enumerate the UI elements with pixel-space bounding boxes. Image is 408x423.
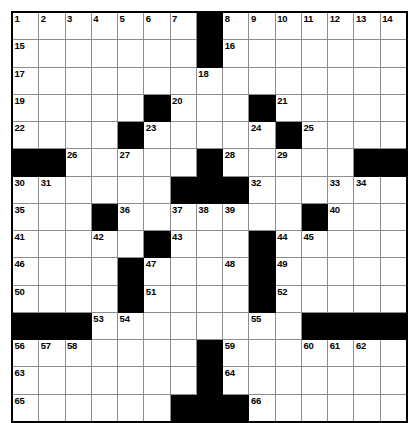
open-square[interactable] <box>380 285 407 312</box>
open-square[interactable] <box>301 149 327 176</box>
open-square[interactable] <box>65 122 91 149</box>
open-square[interactable]: 10 <box>275 12 301 40</box>
open-square[interactable] <box>65 40 91 67</box>
open-square[interactable] <box>65 176 91 203</box>
open-square[interactable]: 45 <box>301 231 327 258</box>
open-square[interactable]: 47 <box>144 258 170 285</box>
open-square[interactable] <box>144 394 170 422</box>
open-square[interactable]: 50 <box>12 285 39 312</box>
open-square[interactable] <box>328 367 354 394</box>
open-square[interactable] <box>118 40 144 67</box>
open-square[interactable] <box>91 176 117 203</box>
open-square[interactable] <box>328 231 354 258</box>
open-square[interactable] <box>39 285 65 312</box>
open-square[interactable] <box>65 394 91 422</box>
open-square[interactable] <box>328 67 354 94</box>
open-square[interactable]: 46 <box>12 258 39 285</box>
open-square[interactable] <box>118 94 144 121</box>
open-square[interactable] <box>91 149 117 176</box>
open-square[interactable]: 64 <box>223 367 249 394</box>
open-square[interactable] <box>170 40 196 67</box>
open-square[interactable] <box>118 394 144 422</box>
open-square[interactable] <box>275 340 301 367</box>
open-square[interactable] <box>275 312 301 339</box>
open-square[interactable] <box>39 231 65 258</box>
open-square[interactable] <box>170 122 196 149</box>
open-square[interactable]: 20 <box>170 94 196 121</box>
open-square[interactable]: 57 <box>39 340 65 367</box>
open-square[interactable]: 32 <box>249 176 275 203</box>
open-square[interactable] <box>118 176 144 203</box>
open-square[interactable]: 63 <box>12 367 39 394</box>
open-square[interactable] <box>196 312 222 339</box>
open-square[interactable] <box>223 94 249 121</box>
open-square[interactable] <box>354 231 380 258</box>
open-square[interactable] <box>39 40 65 67</box>
open-square[interactable]: 2 <box>39 12 65 40</box>
open-square[interactable] <box>39 122 65 149</box>
open-square[interactable] <box>65 258 91 285</box>
open-square[interactable] <box>39 94 65 121</box>
open-square[interactable] <box>380 340 407 367</box>
open-square[interactable] <box>328 258 354 285</box>
open-square[interactable] <box>91 340 117 367</box>
open-square[interactable] <box>196 258 222 285</box>
open-square[interactable] <box>380 176 407 203</box>
open-square[interactable] <box>65 94 91 121</box>
open-square[interactable] <box>223 67 249 94</box>
open-square[interactable] <box>249 40 275 67</box>
open-square[interactable] <box>196 94 222 121</box>
open-square[interactable]: 58 <box>65 340 91 367</box>
open-square[interactable]: 48 <box>223 258 249 285</box>
open-square[interactable]: 12 <box>328 12 354 40</box>
open-square[interactable] <box>196 231 222 258</box>
open-square[interactable]: 30 <box>12 176 39 203</box>
open-square[interactable] <box>380 394 407 422</box>
open-square[interactable] <box>380 94 407 121</box>
open-square[interactable] <box>170 258 196 285</box>
open-square[interactable] <box>380 67 407 94</box>
open-square[interactable] <box>301 67 327 94</box>
open-square[interactable] <box>354 285 380 312</box>
open-square[interactable] <box>328 285 354 312</box>
open-square[interactable]: 29 <box>275 149 301 176</box>
open-square[interactable] <box>249 149 275 176</box>
open-square[interactable] <box>275 40 301 67</box>
open-square[interactable]: 41 <box>12 231 39 258</box>
open-square[interactable] <box>65 203 91 230</box>
open-square[interactable] <box>170 367 196 394</box>
open-square[interactable] <box>91 258 117 285</box>
open-square[interactable] <box>249 340 275 367</box>
open-square[interactable]: 36 <box>118 203 144 230</box>
open-square[interactable]: 16 <box>223 40 249 67</box>
open-square[interactable]: 54 <box>118 312 144 339</box>
open-square[interactable]: 13 <box>354 12 380 40</box>
open-square[interactable]: 65 <box>12 394 39 422</box>
open-square[interactable] <box>144 203 170 230</box>
open-square[interactable]: 60 <box>301 340 327 367</box>
open-square[interactable] <box>275 176 301 203</box>
open-square[interactable] <box>380 40 407 67</box>
open-square[interactable]: 31 <box>39 176 65 203</box>
open-square[interactable] <box>39 203 65 230</box>
open-square[interactable] <box>249 203 275 230</box>
open-square[interactable] <box>65 285 91 312</box>
open-square[interactable]: 37 <box>170 203 196 230</box>
open-square[interactable]: 22 <box>12 122 39 149</box>
open-square[interactable] <box>65 367 91 394</box>
open-square[interactable]: 49 <box>275 258 301 285</box>
open-square[interactable]: 18 <box>196 67 222 94</box>
open-square[interactable] <box>118 340 144 367</box>
open-square[interactable] <box>118 67 144 94</box>
open-square[interactable]: 27 <box>118 149 144 176</box>
open-square[interactable]: 21 <box>275 94 301 121</box>
open-square[interactable]: 6 <box>144 12 170 40</box>
open-square[interactable] <box>170 340 196 367</box>
open-square[interactable]: 1 <box>12 12 39 40</box>
open-square[interactable]: 26 <box>65 149 91 176</box>
open-square[interactable]: 19 <box>12 94 39 121</box>
open-square[interactable] <box>223 122 249 149</box>
open-square[interactable] <box>170 312 196 339</box>
open-square[interactable] <box>380 231 407 258</box>
open-square[interactable] <box>118 231 144 258</box>
